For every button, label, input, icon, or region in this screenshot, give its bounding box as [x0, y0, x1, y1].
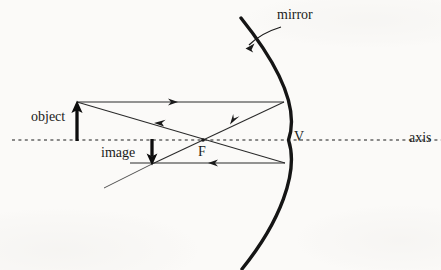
image-label: image [101, 146, 135, 160]
optics-ray-diagram: mirror object image F V axis [0, 0, 441, 270]
extended-construction-ray [104, 164, 152, 188]
mirror-arc [241, 18, 291, 269]
mirror-callout-arrowhead [246, 44, 255, 53]
object-label: object [31, 110, 65, 124]
mirror-label: mirror [277, 8, 313, 22]
diagram-canvas [0, 0, 441, 270]
focal-point-label: F [198, 145, 206, 159]
focal-point-marker [201, 138, 205, 142]
vertex-label: V [294, 130, 304, 144]
axis-label: axis [409, 131, 432, 145]
reflected-through-focus-ray [152, 102, 284, 164]
